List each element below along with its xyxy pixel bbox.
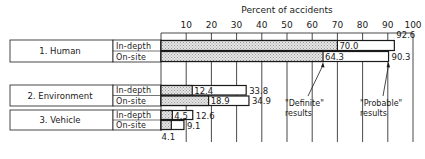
definite-annotation-line2: results (285, 109, 312, 118)
bar-groups: 1. HumanIn-depth70.092.6On-site64.390.32… (10, 30, 415, 142)
category-label: 2. Environment (27, 91, 93, 101)
x-tick-label: 100 (404, 20, 421, 30)
definite-arrow-line (308, 65, 323, 96)
category-label: 3. Vehicle (39, 115, 80, 125)
definite-bar (161, 111, 172, 120)
x-axis-title: Percent of accidents (241, 5, 333, 15)
definite-value: 4.5 (174, 111, 188, 121)
x-tick-label: 50 (281, 20, 293, 30)
probable-annotation-line1: "Probable" (360, 99, 402, 108)
probable-arrow-head-icon (387, 62, 391, 68)
definite-bar (161, 52, 323, 62)
x-tick-label: 30 (231, 20, 243, 30)
probable-value: 92.6 (396, 30, 415, 40)
sublabel-on-site: On-site (116, 97, 146, 106)
x-tick-label: 40 (256, 20, 268, 30)
definite-value: 12.4 (194, 86, 213, 96)
sublabel-in-depth: In-depth (116, 86, 151, 95)
probable-value: 90.3 (392, 52, 411, 62)
definite-annotation-line1: "Definite" (285, 99, 324, 108)
probable-value: 12.6 (196, 111, 215, 121)
x-tick-label: 80 (357, 20, 369, 30)
probable-value: 34.9 (252, 96, 271, 106)
accident-causes-chart: Percent of accidents 1020304050607080901… (0, 0, 425, 159)
group-vehicle: 3. VehicleIn-depth4.512.6On-site4.19.1 (10, 110, 215, 142)
x-axis-ticks: 102030405060708090100 (180, 20, 421, 30)
probable-value: 33.8 (249, 86, 268, 96)
sublabel-in-depth: In-depth (116, 111, 151, 120)
definite-arrow-head-icon (321, 62, 325, 68)
definite-value: 4.1 (162, 132, 176, 142)
definite-bar (161, 86, 192, 96)
x-tick-label: 60 (306, 20, 318, 30)
definite-value: 18.9 (211, 96, 230, 106)
sublabel-on-site: On-site (116, 53, 146, 62)
definite-value: 64.3 (325, 52, 344, 62)
sublabel-on-site: On-site (116, 121, 146, 130)
category-label: 1. Human (39, 46, 80, 56)
x-tick-label: 20 (206, 20, 218, 30)
definite-value: 70.0 (339, 41, 358, 51)
definite-bar (161, 96, 209, 106)
group-environment: 2. EnvironmentIn-depth12.433.8On-site18.… (10, 85, 271, 106)
probable-value: 9.1 (187, 121, 201, 131)
definite-bar (161, 121, 171, 130)
group-human: 1. HumanIn-depth70.092.6On-site64.390.3 (10, 30, 415, 62)
sublabel-in-depth: In-depth (116, 42, 151, 51)
chart-canvas: Percent of accidents 1020304050607080901… (0, 0, 425, 159)
x-tick-label: 70 (332, 20, 344, 30)
x-tick-label: 90 (382, 20, 394, 30)
probable-annotation-line2: results (360, 109, 387, 118)
definite-bar (161, 41, 337, 51)
x-tick-label: 10 (180, 20, 192, 30)
annotations: "Definite"results"Probable"results (285, 62, 402, 118)
